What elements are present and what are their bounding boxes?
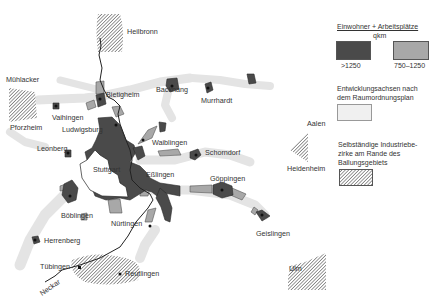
label-backnang: Backnang — [156, 85, 188, 94]
legend-density-unit: qkm — [373, 31, 386, 40]
legend-mid-label: 750–1250 — [394, 61, 425, 70]
legend-swatch-mid — [393, 41, 429, 60]
label-bietigheim: Bietigheim — [106, 90, 140, 99]
legend-industry-1: Selbständige Industriebe- — [338, 140, 417, 149]
label-esslingen: Eßlingen — [146, 170, 174, 179]
label-heidenheim: Heidenheim — [287, 164, 325, 173]
legend-industry-2: zirke am Rande des — [338, 149, 400, 158]
label-stuttgart: Stuttgart — [93, 165, 120, 174]
label-neckar: Neckar — [38, 277, 62, 298]
label-reutlingen: Reutlingen — [125, 269, 159, 278]
label-aalen: Aalen — [307, 119, 325, 128]
label-goeppingen: Göppingen — [210, 174, 245, 183]
label-muehlacker: Mühlacker — [6, 75, 40, 84]
legend-industry-3: Ballungsgebiets — [338, 158, 387, 167]
label-ulm: Ulm — [289, 264, 302, 273]
district-pforzheim — [9, 88, 37, 122]
legend-swatch-high — [336, 41, 371, 60]
legend-density-title: Einwohner + Arbeitsplätze — [337, 22, 418, 31]
legend-axes-title-2: dem Raumordnungsplan — [337, 93, 414, 102]
legend-swatch-industry — [339, 169, 373, 186]
area-backnang-south — [159, 122, 166, 132]
label-boeblingen: Böblingen — [61, 211, 93, 220]
label-waiblingen: Waiblingen — [152, 138, 187, 147]
label-tuebingen: Tübingen — [40, 262, 70, 271]
label-herrenberg: Herrenberg — [44, 236, 80, 245]
legend-high-label: >1250 — [341, 61, 361, 70]
label-vaihingen: Vaihingen — [52, 113, 83, 122]
label-geislingen: Geislingen — [256, 229, 290, 238]
label-heilbronn: Heilbronn — [127, 27, 158, 36]
legend-axes-title-1: Entwicklungsachsen nach — [337, 84, 418, 93]
label-ludwigsburg: Ludwigsburg — [62, 125, 103, 134]
label-nuertingen: Nürtingen — [111, 219, 142, 228]
label-leonberg: Leonberg — [37, 144, 67, 153]
legend-swatch-axes — [337, 104, 372, 121]
label-pforzheim: Pforzheim — [10, 123, 42, 132]
district-aalen-heidenheim — [290, 133, 308, 162]
label-murrhardt: Murrhardt — [201, 96, 232, 105]
label-schorndorf: Schorndorf — [205, 148, 240, 157]
